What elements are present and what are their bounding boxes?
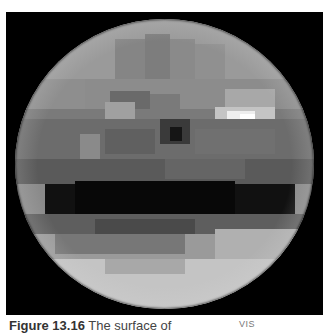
planet-sphere-image bbox=[15, 19, 314, 309]
planet-edge bbox=[15, 19, 314, 309]
vis-tag-label: VIS bbox=[239, 319, 255, 329]
figure-number-label: Figure 13.16 bbox=[9, 318, 85, 333]
figure-caption: Figure 13.16 The surface of bbox=[9, 318, 171, 333]
figure-caption-text: The surface of bbox=[85, 318, 171, 333]
figure-image-panel bbox=[6, 12, 323, 315]
